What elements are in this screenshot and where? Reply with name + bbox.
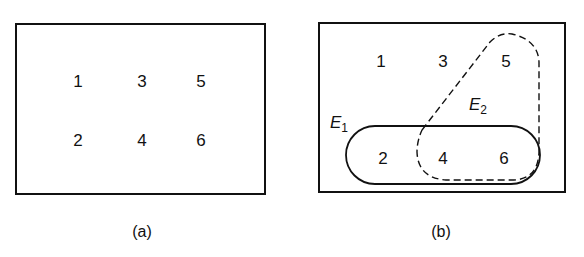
element-1-a: 1 — [73, 73, 82, 90]
element-6-a: 6 — [196, 132, 205, 149]
element-5-a: 5 — [196, 73, 205, 90]
caption-b: (b) — [431, 224, 451, 240]
caption-a: (a) — [132, 224, 152, 240]
element-1-b: 1 — [376, 53, 385, 70]
event-e2-label: E2 — [469, 96, 487, 116]
diagram-canvas — [0, 0, 584, 257]
element-3-b: 3 — [438, 53, 447, 70]
element-5-b: 5 — [501, 53, 510, 70]
element-4-b: 4 — [438, 150, 447, 167]
element-3-a: 3 — [137, 73, 146, 90]
sample-space-box-a — [16, 24, 265, 194]
element-4-a: 4 — [137, 132, 146, 149]
element-2-a: 2 — [73, 132, 82, 149]
element-2-b: 2 — [378, 150, 387, 167]
event-e1-label: E1 — [330, 114, 348, 134]
element-6-b: 6 — [499, 150, 508, 167]
